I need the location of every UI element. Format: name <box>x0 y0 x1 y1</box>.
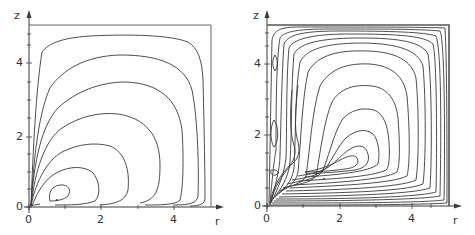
y-tick-2: 2 <box>254 129 261 140</box>
x-tick-2: 2 <box>336 213 343 224</box>
left-contour-plot: z r 0 2 4 0 2 4 <box>0 0 237 235</box>
r-axis-arrow-icon <box>216 205 224 210</box>
y-tick-0: 0 <box>254 200 261 211</box>
right-contour-plot: z r 0 2 4 0 2 4 <box>238 0 475 235</box>
r-axis-arrow-icon <box>454 204 462 209</box>
left-plot-canvas <box>0 0 237 235</box>
domain-frame <box>267 25 449 206</box>
z-axis-arrow-icon <box>265 10 270 18</box>
right-plot-canvas <box>238 0 475 235</box>
x-tick-0: 0 <box>25 214 32 225</box>
z-axis-arrow-icon <box>27 10 32 18</box>
x-tick-4: 4 <box>408 213 415 224</box>
r-axis-label: r <box>215 216 220 227</box>
x-tick-4: 4 <box>170 214 177 225</box>
x-tick-0: 0 <box>263 213 270 224</box>
vortex-center-marker <box>56 199 58 201</box>
vortex-center-marker <box>323 178 325 180</box>
streamline-contours <box>30 35 205 206</box>
z-axis-label: z <box>253 10 259 21</box>
y-tick-0: 0 <box>16 201 23 212</box>
domain-frame <box>29 25 211 207</box>
y-tick-4: 4 <box>254 58 261 69</box>
y-tick-4: 4 <box>16 57 23 68</box>
z-axis-label: z <box>14 10 20 21</box>
streamline-contours <box>269 27 447 205</box>
r-axis-label: r <box>453 215 458 226</box>
y-tick-2: 2 <box>16 131 23 142</box>
x-tick-2: 2 <box>97 214 104 225</box>
